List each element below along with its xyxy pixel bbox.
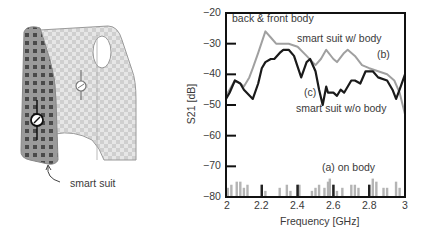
noise-bar-highlight	[261, 185, 263, 197]
noise-bar	[350, 185, 352, 197]
noise-bar	[230, 185, 232, 197]
noise-bar	[372, 179, 374, 197]
x-tick-label: 2.4	[290, 199, 305, 211]
noise-bar	[386, 188, 388, 197]
noise-bar	[341, 188, 343, 197]
arrow-head-icon	[46, 165, 51, 170]
noise-bar	[243, 188, 245, 197]
noise-bar-highlight	[296, 185, 298, 197]
noise-bar	[323, 188, 325, 197]
noise-bar	[354, 185, 356, 197]
annotation-back-front-body: back & front body	[232, 12, 314, 24]
x-tick-label: 2.8	[362, 199, 377, 211]
y-axis-label: S21 [dB]	[185, 74, 197, 134]
noise-bar	[395, 182, 397, 197]
smart-suit-illustration	[21, 26, 136, 182]
y-tick-label: −20	[203, 6, 221, 18]
annotation-a-on-body: (a) on body	[322, 161, 375, 173]
x-tick-label: 3	[402, 199, 408, 211]
noise-bar	[382, 188, 384, 197]
y-tick-label: −60	[203, 129, 221, 141]
noise-bar-highlight	[332, 185, 334, 197]
noise-bar	[398, 188, 400, 197]
x-axis-label: Frequency [GHz]	[280, 215, 359, 227]
noise-bar	[375, 182, 377, 197]
y-tick-label: −30	[203, 37, 221, 49]
annotation-smart-suit-wo-body: smart suit w/o body	[296, 102, 386, 114]
smart-suit-caption: smart suit	[70, 177, 116, 189]
noise-bar-highlight	[368, 185, 370, 197]
noise-bar	[329, 179, 331, 197]
y-tick-label: −50	[203, 98, 221, 110]
arm-hole	[93, 36, 111, 68]
x-tick-label: 2.6	[326, 199, 341, 211]
y-tick-label: −70	[203, 159, 221, 171]
y-tick-label: −80	[203, 190, 221, 202]
noise-bar	[286, 185, 288, 197]
noise-bar	[314, 188, 316, 197]
noise-bar	[239, 182, 241, 197]
annotation-smart-suit-w-body: smart suit w/ body	[297, 32, 382, 44]
annotation-b: (b)	[377, 48, 390, 60]
y-tick-label: −40	[203, 67, 221, 79]
noise-bar	[236, 182, 238, 197]
noise-bar	[246, 185, 248, 197]
x-tick-label: 2	[224, 199, 230, 211]
noise-bar	[357, 188, 359, 197]
annotation-c: (c)	[304, 86, 316, 98]
noise-bar	[318, 185, 320, 197]
noise-bar	[279, 188, 281, 197]
x-tick-label: 2.2	[254, 199, 269, 211]
